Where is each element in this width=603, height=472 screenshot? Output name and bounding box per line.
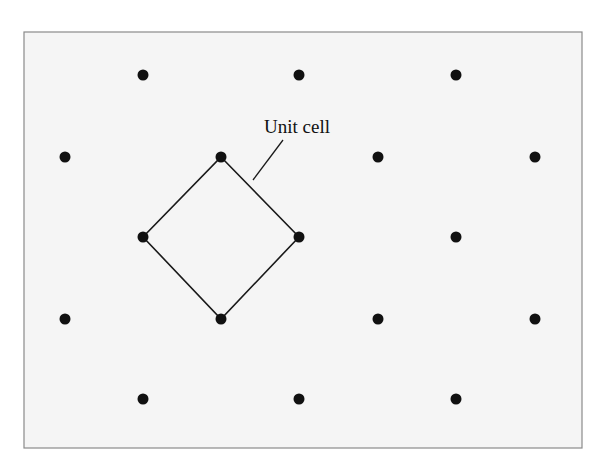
lattice-point (451, 394, 462, 405)
lattice-point (530, 152, 541, 163)
lattice-point (294, 70, 305, 81)
lattice-point (60, 152, 71, 163)
lattice-point (451, 70, 462, 81)
lattice-point (216, 314, 227, 325)
lattice-point (138, 232, 149, 243)
lattice-figure: Unit cell (0, 0, 603, 472)
lattice-point (294, 232, 305, 243)
lattice-point (60, 314, 71, 325)
lattice-point (216, 152, 227, 163)
lattice-point (451, 232, 462, 243)
lattice-point (294, 394, 305, 405)
lattice-point (530, 314, 541, 325)
lattice-point (373, 152, 384, 163)
lattice-point (373, 314, 384, 325)
lattice-point (138, 394, 149, 405)
lattice-diagram: Unit cell (0, 0, 603, 472)
lattice-point (138, 70, 149, 81)
unit-cell-label: Unit cell (264, 116, 330, 137)
